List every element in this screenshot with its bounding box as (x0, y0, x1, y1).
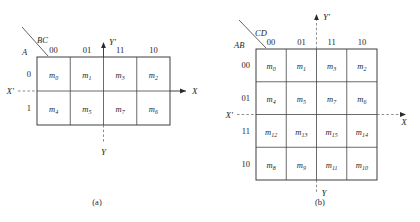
kmap-a-cell-1-2: m7 (116, 104, 126, 115)
kmap-a-col-header-2: 11 (116, 45, 124, 55)
karnaugh-map-figure: BC A 00 01 11 10 0 1 m0 m1 m3 m2 m4 m5 m… (0, 0, 420, 222)
kmap-b-row-header-2: 11 (242, 126, 250, 136)
kmap-a-y-axis-arrowhead (101, 42, 106, 48)
kmap-a: BC A 00 01 11 10 0 1 m0 m1 m3 m2 m4 m5 m… (6, 27, 198, 207)
kmap-b-cell-0-3: m2 (357, 61, 366, 72)
figure-canvas: BC A 00 01 11 10 0 1 m0 m1 m3 m2 m4 m5 m… (0, 0, 420, 222)
kmap-b-cell-3-3: m10 (356, 160, 368, 171)
kmap-a-col-header-1: 01 (83, 45, 92, 55)
kmap-b-col-header-0: 00 (267, 37, 276, 47)
caption-b: (b) (315, 197, 325, 207)
kmap-a-cell-0-2: m3 (116, 70, 125, 81)
kmap-b-cell-3-2: m11 (326, 160, 338, 171)
kmap-b-row-group-label: AB (233, 40, 244, 50)
kmap-b-row-header-3: 10 (242, 159, 251, 169)
kmap-b-x-negative-label: X' (225, 110, 234, 120)
kmap-a-col-group-label: BC (37, 35, 48, 45)
kmap-b-col-header-1: 01 (297, 37, 306, 47)
kmap-a-row-group-label: A (21, 47, 28, 57)
kmap-a-cell-1-1: m5 (82, 104, 91, 115)
kmap-b-cell-3-1: m9 (297, 160, 306, 171)
kmap-b-cell-0-1: m1 (297, 61, 306, 72)
kmap-b-cell-1-2: m7 (327, 94, 337, 105)
kmap-b: CD AB 00 01 11 10 00 01 11 10 m0 m1 m3 m… (225, 12, 408, 207)
kmap-b-col-header-2: 11 (328, 37, 336, 47)
kmap-b-cell-2-3: m14 (356, 127, 368, 138)
kmap-a-col-header-0: 00 (49, 45, 58, 55)
kmap-b-cell-0-0: m0 (267, 61, 276, 72)
kmap-b-row-header-0: 00 (242, 60, 251, 70)
kmap-b-cell-0-2: m3 (327, 61, 336, 72)
caption-a: (a) (92, 197, 102, 207)
kmap-b-cell-2-2: m15 (326, 127, 338, 138)
kmap-a-cell-1-0: m4 (49, 104, 58, 115)
kmap-a-x-positive-label: X (191, 86, 198, 96)
kmap-b-row-header-1: 01 (242, 93, 251, 103)
kmap-b-cell-1-0: m4 (267, 94, 276, 105)
kmap-a-col-header-3: 10 (149, 45, 158, 55)
kmap-b-x-positive-label: X (400, 117, 407, 127)
kmap-b-col-group-label: CD (255, 28, 268, 38)
kmap-a-cell-0-3: m2 (149, 70, 158, 81)
kmap-b-cell-1-3: m6 (357, 94, 366, 105)
kmap-b-cell-2-0: m12 (265, 127, 277, 138)
kmap-a-row-header-0: 0 (27, 69, 31, 79)
kmap-a-y-positive-label: Y' (109, 37, 117, 47)
kmap-a-x-axis-arrowhead (180, 89, 186, 94)
kmap-b-cell-1-1: m5 (297, 94, 306, 105)
kmap-a-cell-0-1: m1 (82, 70, 91, 81)
kmap-a-y-negative-label: Y (101, 147, 107, 157)
kmap-a-cell-1-3: m6 (149, 104, 158, 115)
kmap-b-col-header-3: 10 (358, 37, 367, 47)
kmap-b-cell-2-1: m13 (295, 127, 307, 138)
kmap-b-cell-3-0: m8 (267, 160, 276, 171)
kmap-a-row-header-1: 1 (27, 103, 31, 113)
kmap-a-cell-0-0: m0 (49, 70, 58, 81)
kmap-b-y-positive-label: Y' (323, 12, 331, 22)
kmap-a-x-negative-label: X' (6, 86, 15, 96)
kmap-b-y-axis-arrowhead (314, 14, 319, 20)
